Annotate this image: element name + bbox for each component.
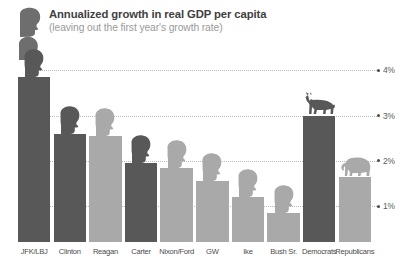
head-silhouette-icon — [199, 152, 225, 181]
bar-carter[interactable] — [125, 163, 157, 242]
head-silhouette-icon — [235, 168, 261, 197]
y-axis-tick-label: 2% — [383, 156, 395, 166]
y-axis-tick-label: 1% — [383, 201, 395, 211]
bar-gw[interactable] — [196, 181, 228, 242]
gridline-marker-dot — [377, 205, 380, 208]
head-silhouette-icon — [57, 105, 83, 134]
bar-jfk-lbj[interactable] — [18, 77, 50, 242]
gridline-4pct — [36, 70, 377, 71]
elephant-icon — [335, 155, 375, 177]
bar-label-republicans: Republicans — [332, 247, 378, 256]
head-silhouette-icon — [271, 184, 297, 213]
bar-nixon-ford[interactable] — [160, 168, 192, 242]
y-axis-tick-label: 3% — [383, 111, 395, 121]
bar-democrats[interactable] — [303, 116, 335, 242]
gdp-growth-chart: Annualized growth in real GDP per capita… — [0, 0, 404, 270]
gridline-marker-dot — [377, 114, 380, 117]
gridline-marker-dot — [377, 159, 380, 162]
head-silhouette-icon — [128, 134, 154, 163]
bar-bush-sr[interactable] — [267, 213, 299, 242]
gridline-marker-dot — [377, 69, 380, 72]
bar-ike[interactable] — [232, 197, 264, 242]
bar-reagan[interactable] — [89, 136, 121, 242]
head-silhouette-icon — [21, 48, 47, 77]
y-axis-tick-label: 4% — [383, 65, 395, 75]
bar-clinton[interactable] — [54, 134, 86, 242]
head-silhouette-icon — [92, 107, 118, 136]
head-silhouette-icon — [164, 139, 190, 168]
bar-republicans[interactable] — [339, 177, 371, 242]
donkey-icon — [299, 92, 339, 116]
plot-area: 1%2%3%4%JFK/LBJClintonReaganCarterNixon/… — [0, 0, 404, 245]
